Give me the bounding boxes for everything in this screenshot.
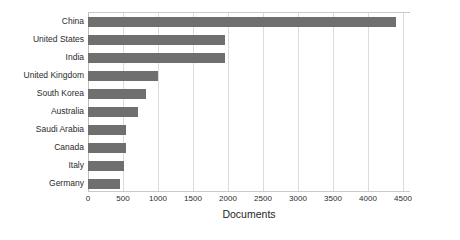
bar-south-korea xyxy=(88,89,146,99)
bar-united-kingdom xyxy=(88,71,158,81)
x-tick-label: 0 xyxy=(86,194,90,203)
bar-row xyxy=(88,121,410,139)
x-axis-tick-labels: 050010001500200025003000350040004500 xyxy=(88,194,410,206)
x-tick-label: 4000 xyxy=(359,194,377,203)
category-label: United Kingdom xyxy=(0,70,84,80)
bar-series xyxy=(88,13,410,191)
bar-row xyxy=(88,49,410,67)
category-label: Saudi Arabia xyxy=(0,124,84,134)
bar-canada xyxy=(88,143,126,153)
category-label: India xyxy=(0,52,84,62)
bar-row xyxy=(88,31,410,49)
bar-germany xyxy=(88,179,120,189)
bar-row xyxy=(88,13,410,31)
category-label: United States xyxy=(0,34,84,44)
category-label: Germany xyxy=(0,178,84,188)
documents-by-country-bar-chart: ChinaUnited StatesIndiaUnited KingdomSou… xyxy=(0,0,460,240)
x-tick-label: 3500 xyxy=(324,194,342,203)
category-axis-labels: ChinaUnited StatesIndiaUnited KingdomSou… xyxy=(0,12,84,192)
plot-area xyxy=(88,12,410,192)
bar-australia xyxy=(88,107,138,117)
bar-united-states xyxy=(88,35,225,45)
bar-row xyxy=(88,85,410,103)
bar-india xyxy=(88,53,225,63)
bar-row xyxy=(88,157,410,175)
x-tick-label: 4500 xyxy=(394,194,412,203)
bar-row xyxy=(88,139,410,157)
x-tick-label: 2500 xyxy=(254,194,272,203)
bar-row xyxy=(88,67,410,85)
category-label: South Korea xyxy=(0,88,84,98)
x-tick-label: 1000 xyxy=(149,194,167,203)
x-tick-label: 3000 xyxy=(289,194,307,203)
category-label: Italy xyxy=(0,160,84,170)
x-tick-label: 500 xyxy=(116,194,129,203)
bar-row xyxy=(88,103,410,121)
category-label: China xyxy=(0,16,84,26)
category-label: Canada xyxy=(0,142,84,152)
category-label: Australia xyxy=(0,106,84,116)
x-axis-title: Documents xyxy=(88,208,410,220)
bar-italy xyxy=(88,161,124,171)
x-tick-label: 1500 xyxy=(184,194,202,203)
bar-saudi-arabia xyxy=(88,125,126,135)
bar-row xyxy=(88,175,410,193)
bar-china xyxy=(88,17,396,27)
x-tick-label: 2000 xyxy=(219,194,237,203)
